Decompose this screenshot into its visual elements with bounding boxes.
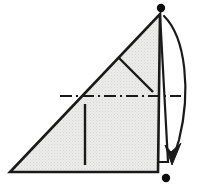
bottom-axis-point (162, 174, 170, 182)
top-axis-point (157, 4, 165, 12)
figure-root: Rotation of a shaded right triangle abou… (0, 0, 197, 189)
rotation-diagram: Rotation of a shaded right triangle abou… (0, 0, 197, 189)
